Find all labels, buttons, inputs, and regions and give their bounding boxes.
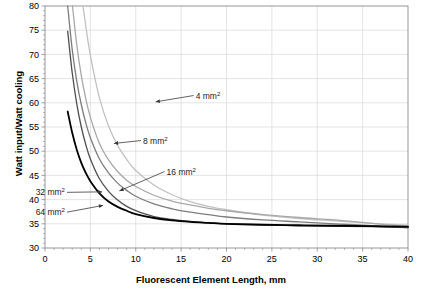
x-tick-label: 10	[131, 254, 141, 264]
y-tick-label: 60	[29, 98, 39, 108]
y-tick-label: 65	[29, 74, 39, 84]
plot-svg: 4 mm28 mm216 mm232 mm264 mm2 30354045505…	[0, 0, 422, 292]
x-tick-label: 15	[176, 254, 186, 264]
x-tick-label: 35	[358, 254, 368, 264]
y-tick-label: 80	[29, 1, 39, 11]
x-tick-label: 25	[267, 254, 277, 264]
x-tick-label: 0	[42, 254, 47, 264]
y-tick-label: 75	[29, 25, 39, 35]
y-tick-label: 50	[29, 146, 39, 156]
y-tick-label: 55	[29, 122, 39, 132]
x-tick-label: 40	[403, 254, 413, 264]
series-label-32-mm2: 32 mm2	[36, 187, 66, 197]
y-tick-label: 35	[29, 219, 39, 229]
y-tick-label: 30	[29, 243, 39, 253]
x-tick-label: 20	[221, 254, 231, 264]
y-tick-label: 40	[29, 195, 39, 205]
x-tick-label: 30	[312, 254, 322, 264]
x-tick-label: 5	[88, 254, 93, 264]
series-label-16-mm2: 16 mm2	[167, 167, 197, 177]
y-tick-label: 70	[29, 50, 39, 60]
chart-container: Watt input/Watt cooling Fluorescent Elem…	[0, 0, 422, 292]
y-tick-label: 45	[29, 171, 39, 181]
series-label-64-mm2: 64 mm2	[36, 207, 66, 217]
